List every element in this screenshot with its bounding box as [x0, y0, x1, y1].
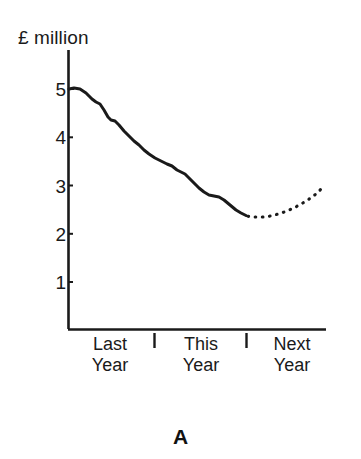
x-tick-label-next-year-line2: Year [247, 355, 337, 376]
x-tick-label-last-year-line2: Year [65, 355, 155, 376]
x-tick-label-next-year-line1: Next [273, 334, 310, 354]
panel-label: A [0, 425, 361, 449]
x-tick-label-next-year: Next Year [247, 334, 337, 376]
x-tick-label-last-year-line1: Last [93, 334, 127, 354]
plot-area [0, 0, 361, 459]
x-tick-label-last-year: Last Year [65, 334, 155, 376]
chart-figure: £ million 5 4 3 2 1 Last Year This Year … [0, 0, 361, 459]
data-line-forecast [248, 188, 322, 217]
x-tick-label-this-year-line1: This [184, 334, 218, 354]
x-tick-label-this-year: This Year [156, 334, 246, 376]
data-line-actual [69, 88, 246, 216]
x-tick-label-this-year-line2: Year [156, 355, 246, 376]
